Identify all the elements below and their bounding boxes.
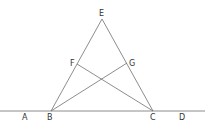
point-label-e: E xyxy=(99,9,104,18)
point-label-f: F xyxy=(70,59,75,68)
segment-BG xyxy=(51,63,127,111)
point-label-d: D xyxy=(179,113,185,122)
segments-group xyxy=(0,19,205,111)
point-label-g: G xyxy=(129,59,135,68)
point-label-b: B xyxy=(47,113,53,122)
segment-BE xyxy=(51,19,102,111)
geometry-diagram: ABCDEFG xyxy=(0,0,205,128)
labels-group: ABCDEFG xyxy=(22,9,185,122)
segment-CE xyxy=(102,19,153,111)
point-label-c: C xyxy=(150,113,156,122)
point-label-a: A xyxy=(22,113,28,122)
